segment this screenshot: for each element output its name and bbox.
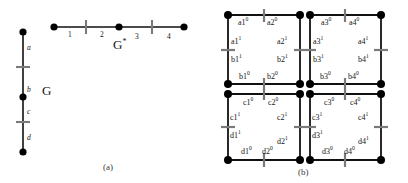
label-text: b3 xyxy=(313,55,321,64)
label-a4-0: a40 xyxy=(349,19,359,27)
label-a4-1: a41 xyxy=(358,38,368,46)
caption-b: (b) xyxy=(298,168,309,177)
graph-gstar-label: G* xyxy=(113,38,126,51)
label-a2-0: a20 xyxy=(267,19,277,27)
label-b1-0: b10 xyxy=(239,73,250,81)
label-sup: 0 xyxy=(275,16,278,22)
label-text: b1 xyxy=(231,55,239,64)
label-b2-1: b21 xyxy=(277,56,288,64)
grid-vertex xyxy=(296,11,304,19)
label-a3-0: a30 xyxy=(321,19,331,27)
label-sup: 1 xyxy=(285,53,288,59)
g-edge-label-c: c xyxy=(27,108,30,116)
gstar-edge-label-1: 1 xyxy=(68,31,72,39)
label-sup: 1 xyxy=(320,111,323,117)
label-sup: 1 xyxy=(321,53,324,59)
label-text: a3 xyxy=(313,37,321,46)
label-text: d3 xyxy=(312,131,320,140)
grid-vertex xyxy=(224,156,232,164)
label-text: d1 xyxy=(241,147,249,156)
label-sup: 1 xyxy=(366,111,369,117)
label-text: a1 xyxy=(238,18,246,27)
gstar-vertex-left xyxy=(50,23,57,30)
label-sup: 0 xyxy=(328,70,331,76)
g-edge-label-d: d xyxy=(27,134,31,142)
label-d4-1: d41 xyxy=(358,138,369,146)
label-text: b4 xyxy=(348,72,356,81)
g-edge-label-b: b xyxy=(27,86,31,94)
label-b4-1: b41 xyxy=(358,56,369,64)
label-sup: 1 xyxy=(238,111,241,117)
label-text: c3 xyxy=(312,113,320,122)
g-vertex-mid xyxy=(19,93,26,100)
graph-gstar-letter: G xyxy=(113,37,122,52)
grid-vertex xyxy=(377,156,385,164)
label-b4-0: b40 xyxy=(348,73,359,81)
label-sup: 0 xyxy=(352,145,355,151)
label-sup: 1 xyxy=(239,53,242,59)
label-text: d4 xyxy=(358,137,366,146)
label-sup: 1 xyxy=(239,35,242,41)
label-text: c2 xyxy=(268,98,276,107)
label-d1-1: d11 xyxy=(230,132,241,140)
label-b1-1: b11 xyxy=(231,56,242,64)
label-d3-0: d30 xyxy=(322,148,333,156)
label-sup: 0 xyxy=(357,16,360,22)
label-text: d3 xyxy=(322,147,330,156)
label-text: b3 xyxy=(320,72,328,81)
label-sup: 1 xyxy=(321,35,324,41)
label-sup: 0 xyxy=(332,96,335,102)
graph-g-label: G xyxy=(42,84,51,97)
label-a2-1: a21 xyxy=(277,38,287,46)
label-sup: 0 xyxy=(246,16,249,22)
label-text: b2 xyxy=(277,55,285,64)
label-text: c2 xyxy=(277,113,285,122)
label-sup: 1 xyxy=(238,129,241,135)
grid-vertex xyxy=(296,90,304,98)
label-d1-0: d10 xyxy=(241,148,252,156)
grid-vertex xyxy=(306,90,314,98)
label-a1-0: a10 xyxy=(238,19,248,27)
label-text: a2 xyxy=(267,18,275,27)
label-sup: 0 xyxy=(251,96,254,102)
grid-vertex xyxy=(224,11,232,19)
figure-root: a b c d G 1 2 3 4 G* a10 a20 a11 b11 a21… xyxy=(0,0,408,183)
label-text: d1 xyxy=(230,131,238,140)
label-d2-1: d21 xyxy=(277,138,288,146)
label-text: d2 xyxy=(277,137,285,146)
label-sup: 0 xyxy=(249,145,252,151)
label-text: d2 xyxy=(262,147,270,156)
label-c2-1: c21 xyxy=(277,114,287,122)
g-vertex-bottom xyxy=(19,148,26,155)
caption-a: (a) xyxy=(103,163,113,172)
label-d2-0: d20 xyxy=(262,148,273,156)
label-c1-0: c10 xyxy=(243,99,253,107)
grid-vertex xyxy=(224,80,232,88)
label-sup: 0 xyxy=(276,96,279,102)
label-sup: 0 xyxy=(270,145,273,151)
label-text: c1 xyxy=(230,113,238,122)
label-sup: 1 xyxy=(366,53,369,59)
label-text: c3 xyxy=(324,98,332,107)
grid-vertex xyxy=(306,80,314,88)
label-sup: 0 xyxy=(358,96,361,102)
grid-vertex xyxy=(296,80,304,88)
label-text: c1 xyxy=(243,98,251,107)
label-text: a4 xyxy=(358,37,366,46)
label-text: c4 xyxy=(350,98,358,107)
label-sup: 1 xyxy=(285,111,288,117)
label-sup: 1 xyxy=(320,129,323,135)
g-edge-label-a: a xyxy=(27,44,31,52)
label-d3-1: d31 xyxy=(312,132,323,140)
label-text: c4 xyxy=(358,113,366,122)
label-c2-0: c20 xyxy=(268,99,278,107)
grid-vertex xyxy=(377,80,385,88)
label-b2-0: b20 xyxy=(267,73,278,81)
gstar-vertex-right xyxy=(180,23,187,30)
label-sup: 1 xyxy=(285,35,288,41)
label-sup: 0 xyxy=(275,70,278,76)
label-text: b1 xyxy=(239,72,247,81)
label-c3-1: c31 xyxy=(312,114,322,122)
label-text: a1 xyxy=(231,37,239,46)
label-sup: 1 xyxy=(366,35,369,41)
